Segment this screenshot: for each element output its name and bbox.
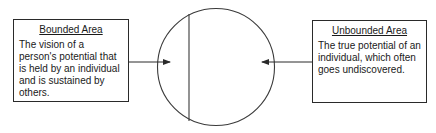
unbounded-area-title: Unbounded Area bbox=[318, 25, 421, 37]
unbounded-area-description: The true potential of an individual, whi… bbox=[318, 40, 421, 76]
bounded-area-box: Bounded Area The vision of a person's po… bbox=[13, 19, 129, 102]
unbounded-area-box: Unbounded Area The true potential of an … bbox=[312, 20, 427, 103]
bounded-area-title: Bounded Area bbox=[19, 24, 123, 36]
bounded-area-description: The vision of a person's potential that … bbox=[19, 39, 123, 99]
potential-circle bbox=[158, 9, 275, 126]
diagram-canvas: Bounded Area The vision of a person's po… bbox=[0, 0, 436, 133]
